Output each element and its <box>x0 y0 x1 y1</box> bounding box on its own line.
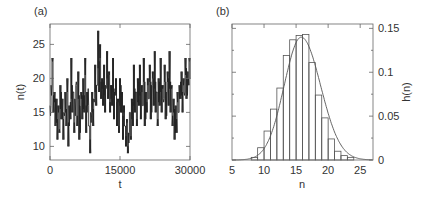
svg-text:0.05: 0.05 <box>378 110 399 122</box>
panel-b-x-ticks: 510152025 <box>229 24 366 176</box>
svg-text:0.15: 0.15 <box>378 22 399 34</box>
panel-b-plot: 00.050.10.15 510152025 n h(n) <box>229 22 412 190</box>
svg-text:20: 20 <box>322 164 334 176</box>
svg-text:10: 10 <box>258 164 270 176</box>
svg-text:25: 25 <box>354 164 366 176</box>
panel-a-xlabel: t <box>118 178 121 190</box>
svg-text:5: 5 <box>229 164 235 176</box>
panel-b-ylabel: h(n) <box>400 82 412 102</box>
svg-text:0.1: 0.1 <box>378 66 393 78</box>
svg-text:15: 15 <box>33 106 45 118</box>
svg-text:0: 0 <box>47 164 53 176</box>
panel-a-plot: 10152025 01500030000 t n(t) <box>14 24 205 190</box>
svg-text:0: 0 <box>378 154 384 166</box>
svg-text:15000: 15000 <box>105 164 136 176</box>
svg-text:10: 10 <box>33 140 45 152</box>
panel-b-xlabel: n <box>299 178 305 190</box>
svg-text:20: 20 <box>33 72 45 84</box>
svg-text:15: 15 <box>290 164 302 176</box>
svg-text:30000: 30000 <box>175 164 206 176</box>
svg-text:25: 25 <box>33 38 45 50</box>
figure-canvas: 10152025 01500030000 t n(t) 00.050.10.15… <box>0 0 429 197</box>
panel-a-ylabel: n(t) <box>14 84 26 101</box>
time-series-line <box>50 31 191 153</box>
